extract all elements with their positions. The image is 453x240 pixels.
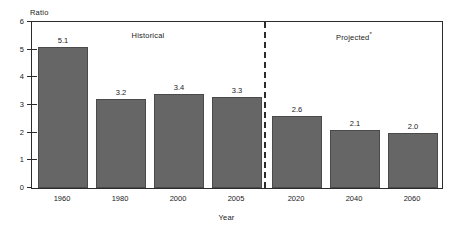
bar-2005 [212,97,262,188]
bar-1980 [96,99,146,188]
annotation-projected-footnote-marker: * [369,31,372,37]
x-axis-label-2005: 2005 [211,195,261,203]
y-tick-inner-4 [32,76,37,77]
x-axis-label-1980: 1980 [95,195,145,203]
y-axis-label-6: 6 [8,18,24,26]
annotation-projected: Projected* [264,31,444,42]
bar-value-1960: 5.1 [38,37,88,45]
bar-2060 [388,133,438,188]
x-axis-label-2000: 2000 [153,195,203,203]
y-axis-title: Ratio [30,8,49,17]
y-axis-label-1: 1 [8,156,24,164]
bar-1960 [38,47,88,188]
bar-value-2060: 2.0 [388,123,438,131]
plot-area: 0 1 2 3 4 5 6 Historical Projected* 5.1 … [31,21,443,189]
bar-2040 [330,130,380,188]
y-tick-inner-2 [32,132,37,133]
x-axis-label-2020: 2020 [271,195,321,203]
y-tick-inner-5 [32,49,37,50]
bar-value-2000: 3.4 [154,84,204,92]
y-axis-label-3: 3 [8,101,24,109]
bar-value-1980: 3.2 [96,89,146,97]
x-axis-label-2040: 2040 [329,195,379,203]
bar-2000 [154,94,204,188]
x-axis-label-1960: 1960 [37,195,87,203]
bar-chart-figure: Ratio 0 1 2 3 4 5 6 Historical Projected… [0,0,453,240]
y-axis-label-5: 5 [8,46,24,54]
y-axis-label-0: 0 [8,184,24,192]
bar-value-2020: 2.6 [272,106,322,114]
annotation-projected-text: Projected [336,33,370,42]
bar-value-2005: 3.3 [212,87,262,95]
y-axis-label-4: 4 [8,73,24,81]
x-axis-label-2060: 2060 [387,195,437,203]
y-axis-label-2: 2 [8,129,24,137]
y-tick-inner-3 [32,104,37,105]
x-axis-title: Year [0,213,453,222]
bar-value-2040: 2.1 [330,120,380,128]
y-tick-inner-1 [32,159,37,160]
period-divider [264,22,266,188]
bar-2020 [272,116,322,188]
y-tick-0 [27,187,32,188]
y-tick-6 [27,21,32,22]
